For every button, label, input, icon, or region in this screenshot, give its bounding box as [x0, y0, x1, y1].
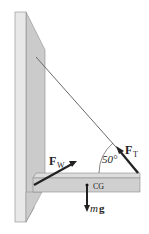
tension-force-subscript: T: [133, 150, 138, 159]
wall-force-label: F: [49, 154, 56, 168]
wall-front-face: [15, 12, 26, 222]
diagram-canvas: 50° F T F W CG m g: [0, 0, 149, 234]
weight-label-g: g: [99, 202, 105, 214]
weight-label-m: m: [90, 202, 98, 214]
wall-force-subscript: W: [57, 161, 65, 170]
tension-force-label: F: [125, 143, 132, 157]
cg-label: CG: [93, 182, 104, 191]
angle-label: 50°: [102, 153, 118, 165]
wall-lower-side: [26, 192, 42, 222]
